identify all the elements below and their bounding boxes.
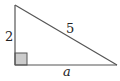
horizontal-leg-label: a [63,64,71,79]
right-angle-marker [15,53,27,65]
right-triangle-diagram: 2 5 a [0,0,120,81]
vertical-leg-label: 2 [5,29,13,44]
hypotenuse-label: 5 [66,21,74,36]
